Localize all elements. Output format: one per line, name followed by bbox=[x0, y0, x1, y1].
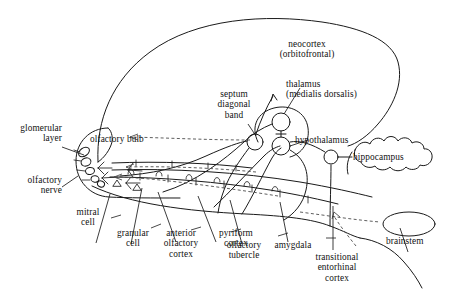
neocortex-arrowhead bbox=[271, 94, 277, 101]
label-mitral-cell: mitral cell bbox=[62, 207, 114, 228]
entorhinal-to-hippocampus-arc bbox=[330, 165, 331, 226]
tubercle-to-hypothalamus-arc bbox=[214, 146, 280, 207]
label-hippocampus: hippocampus bbox=[353, 152, 423, 162]
label-olfactory-nerve: olfactory nerve bbox=[0, 175, 62, 196]
label-septum-diagonal-band: septum diagonal band bbox=[198, 89, 270, 120]
leader-amygdala bbox=[280, 202, 288, 242]
brainstem-to-cortex-dashed bbox=[334, 216, 356, 246]
hypothal-loop-right bbox=[284, 150, 307, 220]
label-glomerular-layer: glomerular layer bbox=[0, 123, 62, 144]
label-anterior-olfactory-cortex: anterior olfactory cortex bbox=[152, 228, 210, 259]
hypothalamus-node bbox=[272, 137, 290, 155]
label-transitional-entorhinal-cortex: transitional entorhinal cortex bbox=[306, 252, 368, 283]
leader-glomerular-layer bbox=[62, 147, 84, 155]
thalamus-node bbox=[272, 113, 290, 131]
septum-node bbox=[247, 134, 263, 150]
label-olfactory-bulb: olfactory bulb bbox=[90, 134, 166, 144]
label-brainstem: brainstem bbox=[386, 236, 448, 246]
label-hypothalamus: hypothalamus bbox=[295, 135, 375, 145]
label-thalamus: thalamus (medialis dorsalis) bbox=[286, 79, 426, 100]
ventral-cortex-upper-border bbox=[112, 170, 372, 198]
cerebellum-stalk bbox=[347, 152, 352, 174]
glomeruli-chain bbox=[77, 145, 106, 188]
brainstem-oval bbox=[383, 212, 435, 236]
leader-olfactory-nerve bbox=[62, 176, 78, 187]
hippocampus-node bbox=[324, 150, 338, 164]
label-amygdala: amygdala bbox=[262, 240, 324, 250]
label-neocortex: neocortex (orbitofrontal) bbox=[252, 39, 362, 60]
septum-loop-left bbox=[218, 148, 249, 213]
